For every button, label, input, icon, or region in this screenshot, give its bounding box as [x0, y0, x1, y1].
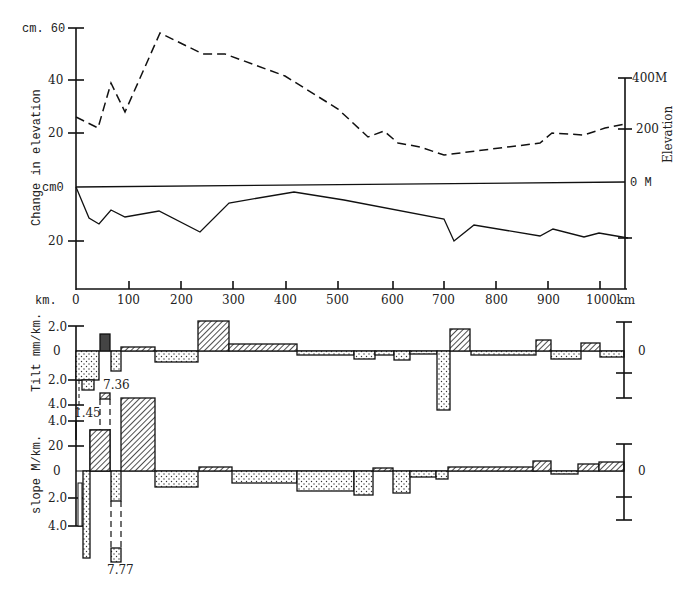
tilt-right-tick-label: 0	[638, 344, 646, 358]
slope-bar	[373, 468, 393, 471]
slope-bar	[533, 461, 551, 471]
tilt-bar	[551, 351, 581, 359]
tilt-bar	[111, 351, 121, 371]
tilt-bar	[297, 351, 354, 355]
tilt-bar	[229, 344, 297, 351]
tilt-bar	[437, 351, 450, 410]
tilt-bar	[581, 343, 600, 351]
tilt-bar	[471, 351, 536, 355]
tilt-bar	[394, 351, 410, 360]
slope-tick-label: 4.0	[48, 519, 67, 533]
x-tick-label: 200	[170, 293, 193, 307]
slope-tick-label: 4.0	[48, 414, 67, 428]
x-tick-label: 100	[117, 293, 140, 307]
x-tick-label: 700	[432, 293, 455, 307]
x-ticks	[129, 281, 600, 289]
x-axis-prefix: km.	[35, 294, 57, 308]
zero-baseline	[76, 182, 625, 187]
slope-tick-label: 20	[48, 439, 63, 453]
right-tick-label: 0 M	[630, 176, 652, 190]
figure: cm. 60 40 20 cm0 20 Change in elevation …	[0, 0, 698, 595]
tilt-bar	[198, 321, 229, 351]
change-in-elevation-line	[76, 187, 628, 241]
slope-bar	[297, 471, 354, 491]
slope-bar	[83, 471, 90, 558]
tilt-bar	[100, 334, 110, 351]
right-tick-label: 400M	[632, 71, 667, 85]
x-tick-label: 1000km	[586, 293, 636, 307]
x-tick-label: 800	[485, 293, 508, 307]
y-tick-label: 40	[48, 73, 63, 87]
slope-tick-label: 2.0	[48, 491, 67, 505]
elevation-line	[76, 33, 625, 155]
y-tick-label: 20	[48, 234, 63, 248]
right-axis-title: Elevation	[661, 105, 675, 163]
slope-bar	[410, 471, 436, 477]
tilt-bar	[76, 351, 99, 380]
tilt-bar-broken-top	[100, 393, 110, 399]
tilt-tick-label: 2.0	[48, 373, 67, 387]
slope-bar	[599, 462, 624, 471]
tilt-bar	[536, 340, 551, 351]
slope-bar	[393, 471, 410, 493]
slope-bar	[199, 467, 232, 471]
tilt-axis-title: Tilt mm/km.	[30, 313, 44, 392]
slope-bar	[578, 464, 599, 471]
slope-tick-label: 0	[53, 464, 61, 478]
slope-bar	[111, 471, 121, 501]
x-tick-label: 600	[381, 293, 404, 307]
tilt-tick-label: 0	[53, 344, 61, 358]
slope-bar	[436, 471, 448, 479]
slope-bar-inner	[78, 483, 82, 526]
slope-right-tick-label: 0	[638, 464, 646, 478]
y-tick-label: cm0	[42, 181, 64, 195]
tilt-bar	[121, 347, 155, 351]
y-tick-label: cm. 60	[22, 22, 65, 36]
slope-bar	[551, 471, 578, 474]
slope-bar	[90, 430, 110, 471]
left-axis-title: Change in elevation	[30, 89, 44, 226]
slope-axis-title: slope M/km.	[30, 435, 44, 514]
slope-chart: 4.0 20 0 2.0 4.0 slope M/km. 7.77 0	[30, 398, 646, 577]
slope-bar	[354, 471, 373, 495]
slope-bar	[121, 398, 155, 471]
tilt-bar	[600, 351, 624, 357]
tilt-bar	[375, 351, 394, 355]
tilt-tick-label: 2.0	[48, 320, 67, 334]
tilt-bar	[354, 351, 375, 359]
slope-bar-broken-bottom	[111, 548, 121, 562]
x-tick-label: 500	[326, 293, 349, 307]
x-tick-label: 0	[72, 293, 80, 307]
slope-bar	[448, 467, 536, 471]
tilt-bar	[82, 380, 94, 390]
x-tick-label: 400	[274, 293, 297, 307]
slope-bar	[232, 471, 297, 483]
annotation-7-36: 7.36	[103, 378, 130, 392]
annotation-1-45: 1.45	[74, 406, 101, 420]
elevation-chart: cm. 60 40 20 cm0 20 Change in elevation …	[22, 22, 675, 308]
slope-bar	[155, 471, 198, 487]
tilt-bar	[155, 351, 198, 362]
tilt-bar	[410, 351, 437, 354]
tilt-bar	[450, 329, 470, 351]
y-tick-label: 20	[48, 126, 63, 140]
right-tick-label: 200	[636, 122, 659, 136]
x-tick-label: 300	[222, 293, 245, 307]
annotation-7-77: 7.77	[107, 563, 134, 577]
x-tick-label: 900	[537, 293, 560, 307]
tilt-tick-label: 4.0	[48, 397, 67, 411]
